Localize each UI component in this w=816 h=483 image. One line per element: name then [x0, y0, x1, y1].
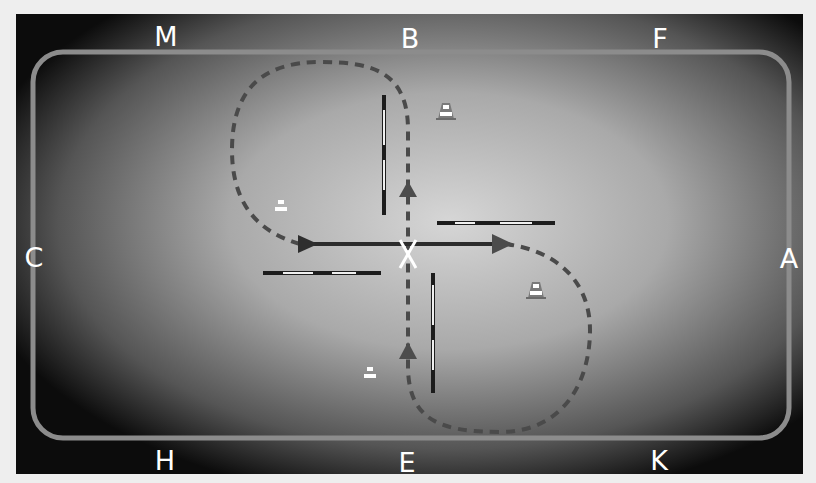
- marker-letter-k: K: [650, 445, 669, 476]
- arena-svg: M B F C A H E K: [0, 0, 816, 483]
- pole-horizontal-right: [437, 221, 555, 225]
- pole-vertical-upper: [382, 95, 386, 215]
- marker-letter-h: H: [155, 445, 175, 476]
- arena-diagram: M B F C A H E K: [0, 0, 816, 483]
- marker-letter-f: F: [652, 23, 668, 54]
- marker-letter-m: M: [154, 21, 177, 52]
- marker-letter-c: C: [25, 242, 44, 273]
- marker-letter-b: B: [401, 23, 420, 54]
- pole-vertical-lower: [431, 273, 435, 393]
- marker-letter-a: A: [780, 243, 799, 274]
- pole-horizontal-left: [263, 271, 381, 275]
- marker-letter-e: E: [398, 447, 415, 478]
